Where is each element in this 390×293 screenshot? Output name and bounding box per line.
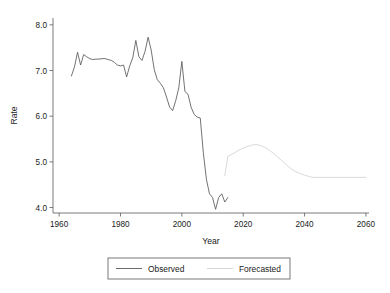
data-series-layer	[71, 37, 366, 209]
series-line-forecasted	[225, 145, 366, 178]
x-tick-label: 2060	[357, 220, 376, 229]
legend-label-forecasted: Forecasted	[239, 264, 281, 274]
x-tick-label: 2040	[295, 220, 314, 229]
axis-lines	[53, 18, 369, 213]
y-tick-label: 8.0	[36, 21, 48, 30]
legend-label-observed: Observed	[148, 264, 185, 274]
x-tick-label: 2000	[173, 220, 192, 229]
x-tick-label: 1980	[111, 220, 130, 229]
chart-legend: ObservedForecasted	[108, 258, 290, 279]
y-tick-label: 7.0	[36, 67, 48, 76]
y-tick-label: 6.0	[36, 112, 48, 121]
y-axis-title: Rate	[9, 106, 19, 124]
chart-container: 196019802000202020402060 4.05.06.07.08.0…	[0, 0, 390, 293]
x-tick-label: 2020	[234, 220, 253, 229]
series-line-observed	[71, 37, 227, 209]
x-axis-ticks: 196019802000202020402060	[50, 213, 375, 229]
y-axis-ticks: 4.05.06.07.08.0	[36, 21, 53, 213]
x-axis-title: Year	[202, 236, 220, 246]
line-chart: 196019802000202020402060 4.05.06.07.08.0…	[0, 0, 390, 293]
y-tick-label: 4.0	[36, 204, 48, 213]
x-tick-label: 1960	[50, 220, 69, 229]
y-tick-label: 5.0	[36, 158, 48, 167]
